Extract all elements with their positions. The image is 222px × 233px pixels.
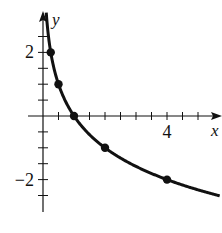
data-point — [70, 112, 78, 120]
x-tick-label: 4 — [163, 122, 172, 142]
y-tick-label: −2 — [15, 170, 34, 190]
data-point — [163, 175, 171, 183]
x-axis — [28, 112, 222, 120]
y-axis-label: y — [50, 10, 60, 29]
y-tick-label: 2 — [25, 42, 34, 62]
function-graph: x y 42−2 — [0, 0, 222, 233]
data-point — [54, 80, 62, 88]
y-axis — [38, 11, 48, 212]
data-point — [47, 48, 55, 56]
data-point — [101, 144, 109, 152]
x-axis-label: x — [210, 121, 219, 140]
curve-line — [46, 13, 219, 196]
